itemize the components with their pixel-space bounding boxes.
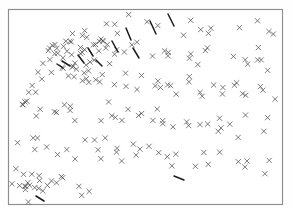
caption-band: [0, 208, 293, 219]
plot-frame: [9, 10, 283, 205]
scatter-plot-svg: [0, 0, 293, 219]
scatter-figure: [0, 0, 293, 219]
